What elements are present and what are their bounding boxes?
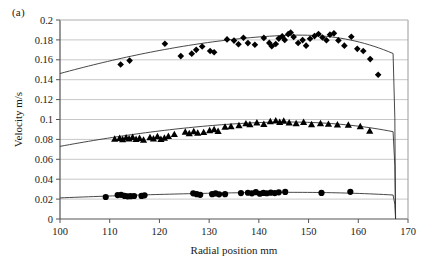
data-point-diamond [303,42,310,49]
data-point-circle [131,193,137,199]
x-axis-title: Radial position mm [191,244,278,256]
y-tick-label: 0.18 [35,35,53,46]
data-point-diamond [354,46,361,53]
x-tick-label: 100 [52,226,68,237]
y-tick-label: 0.2 [40,15,53,26]
data-point-triangle [308,121,315,127]
data-point-diamond [245,40,252,47]
data-point-diamond [360,48,367,55]
chart-plot-area: 00.020.040.060.080.10.120.140.160.180.2 … [0,0,438,262]
data-point-triangle [171,131,178,137]
data-point-triangle [235,122,242,128]
y-axis-title: Velocity m/s [12,92,24,147]
data-point-triangle [293,120,300,126]
fit-curve-mid-velocity-triangles [60,122,396,219]
data-point-circle [197,192,203,198]
data-point-diamond [126,57,133,64]
data-point-triangle [165,133,172,139]
data-point-diamond [199,43,206,50]
data-point-diamond [231,37,238,44]
fit-curve-low-velocity-circles [60,192,396,219]
data-point-circle [238,190,244,196]
data-point-diamond [117,61,124,68]
figure-panel-a: (a) 00.020.040.060.080.10.120.140.160.18… [0,0,438,262]
x-tick-label: 170 [400,226,416,237]
data-point-circle [276,189,282,195]
data-point-circle [216,191,222,197]
x-tick-label: 140 [251,226,267,237]
y-tick-label: 0.14 [35,74,54,85]
data-point-diamond [224,36,231,43]
data-point-diamond [193,47,200,54]
gridlines-group [60,20,408,199]
data-point-diamond [188,50,195,57]
y-tick-label: 0.06 [35,154,53,165]
data-point-circle [103,194,109,200]
y-tick-label: 0.08 [35,134,53,145]
data-point-circle [141,192,147,198]
data-point-diamond [367,56,374,63]
x-tick-label: 120 [152,226,168,237]
y-tick-label: 0.16 [35,54,53,65]
data-point-diamond [348,33,355,40]
data-point-diamond [341,42,348,49]
y-tick-label: 0.12 [35,94,53,105]
data-point-diamond [162,40,169,47]
x-tick-label: 130 [201,226,217,237]
y-axis-ticks-group: 00.020.040.060.080.10.120.140.160.180.2 [35,15,60,225]
data-markers-group [103,29,382,200]
y-tick-label: 0 [48,214,53,225]
data-point-circle [347,189,353,195]
x-tick-label: 160 [350,226,366,237]
data-point-diamond [235,41,242,48]
data-point-circle [318,190,324,196]
data-point-triangle [260,120,267,126]
data-point-triangle [200,129,207,135]
y-tick-label: 0.02 [35,194,53,205]
data-point-triangle [280,117,287,123]
x-tick-label: 110 [102,226,117,237]
data-point-diamond [375,71,382,78]
data-point-circle [222,191,228,197]
data-point-diamond [178,53,185,60]
data-point-diamond [252,41,259,48]
data-point-circle [282,189,288,195]
x-tick-label: 150 [301,226,317,237]
y-tick-label: 0.1 [40,114,53,125]
y-tick-label: 0.04 [35,174,54,185]
x-axis-ticks-group: 100110120130140150160170 [52,219,416,237]
